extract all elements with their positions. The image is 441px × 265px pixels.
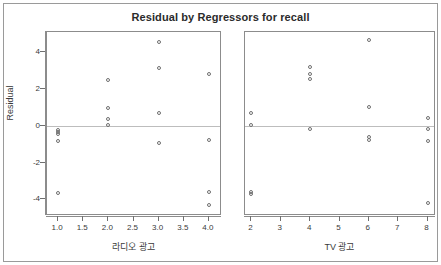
data-point [367, 138, 371, 142]
x-axis-title-radio: 라디오 광고 [46, 240, 221, 253]
y-tick-label: -2 [18, 157, 40, 166]
x-tick-mark [57, 216, 58, 221]
data-point [308, 72, 312, 76]
x-tick-mark [82, 216, 83, 221]
data-point [157, 66, 161, 70]
x-axis-title-tv: TV 광고 [244, 240, 435, 253]
x-tick-mark [368, 216, 369, 221]
data-point [207, 138, 211, 142]
y-tick-mark [40, 51, 45, 52]
zero-reference-line [245, 126, 434, 127]
page-title: Residual by Regressors for recall [0, 11, 441, 23]
x-tick-mark [309, 216, 310, 221]
y-tick-label: 2 [18, 84, 40, 93]
data-point [308, 127, 312, 131]
data-point [426, 127, 430, 131]
y-tick-label: 4 [18, 47, 40, 56]
x-axis-line-tv [244, 216, 435, 217]
data-point [308, 77, 312, 81]
data-point [426, 139, 430, 143]
x-tick-mark [280, 216, 281, 221]
x-tick-mark [250, 216, 251, 221]
data-point [426, 201, 430, 205]
data-point [249, 111, 253, 115]
x-tick-mark [107, 216, 108, 221]
x-tick-mark [208, 216, 209, 221]
data-point [426, 116, 430, 120]
data-point [56, 139, 60, 143]
y-axis-title: Residual [5, 71, 15, 135]
y-tick-mark [40, 125, 45, 126]
data-point [56, 191, 60, 195]
data-point [106, 117, 110, 121]
tv-panel [244, 31, 435, 215]
x-tick-mark [133, 216, 134, 221]
x-tick-label: 6 [353, 223, 383, 232]
x-tick-mark [339, 216, 340, 221]
x-tick-label: 8 [412, 223, 441, 232]
x-tick-label: 4.0 [193, 223, 223, 232]
data-point [207, 72, 211, 76]
data-point [157, 111, 161, 115]
y-tick-mark [40, 88, 45, 89]
data-point [367, 38, 371, 42]
x-tick-mark [427, 216, 428, 221]
radio-panel [46, 31, 221, 215]
x-tick-label: 4 [294, 223, 324, 232]
data-point [157, 40, 161, 44]
y-tick-mark [40, 198, 45, 199]
data-point [106, 78, 110, 82]
x-tick-label: 3 [265, 223, 295, 232]
y-tick-mark [40, 162, 45, 163]
x-tick-label: 7 [382, 223, 412, 232]
data-point [106, 106, 110, 110]
x-tick-label: 2 [235, 223, 265, 232]
data-point [157, 141, 161, 145]
data-point [367, 105, 371, 109]
x-tick-label: 5 [324, 223, 354, 232]
x-tick-mark [158, 216, 159, 221]
residual-plot-figure: Residual by Regressors for recall Residu… [0, 0, 441, 265]
x-tick-mark [183, 216, 184, 221]
x-tick-mark [397, 216, 398, 221]
data-point [207, 203, 211, 207]
y-tick-label: 0 [18, 120, 40, 129]
data-point [207, 190, 211, 194]
zero-reference-line [47, 126, 220, 127]
data-point [56, 132, 60, 136]
y-tick-label: -4 [18, 194, 40, 203]
data-point [106, 123, 110, 127]
x-axis-line-radio [46, 216, 221, 217]
data-point [308, 65, 312, 69]
